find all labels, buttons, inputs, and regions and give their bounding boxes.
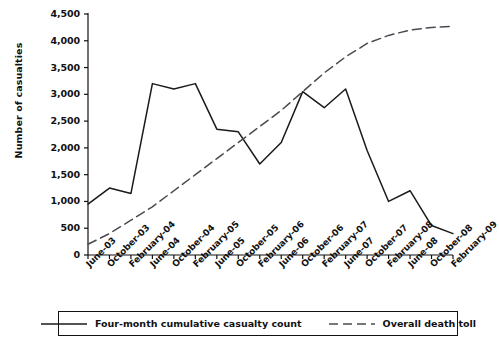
legend-dashed-line-swatch (328, 319, 376, 329)
series-line-four-month-cumulative-casualty-count (88, 84, 453, 234)
legend-solid-line-swatch (40, 319, 88, 329)
legend-item-four-month-cumulative-casualty-count: Four-month cumulative casualty count (40, 318, 302, 329)
chart-legend: Four-month cumulative casualty count Ove… (58, 311, 458, 336)
legend-label-0: Four-month cumulative casualty count (95, 318, 302, 329)
legend-item-overall-death-toll: Overall death toll (328, 318, 476, 329)
legend-label-1: Overall death toll (383, 318, 476, 329)
